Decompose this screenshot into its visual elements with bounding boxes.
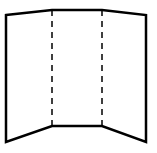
board-outline [6,10,146,142]
tri-fold-board-diagram [0,0,157,153]
tri-fold-board-svg [0,0,157,153]
